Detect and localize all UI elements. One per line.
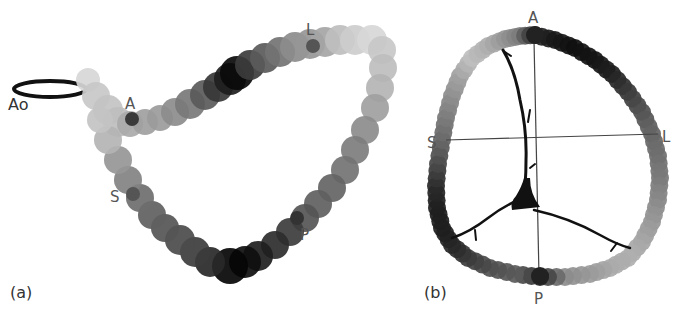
marker-s-dot — [126, 187, 140, 201]
marker-b-a-dot — [526, 26, 544, 44]
marker-a-dot — [125, 112, 139, 126]
panel-b: A L S P (b) — [424, 9, 671, 308]
panel-a: Ao A L S P (a) — [8, 21, 397, 302]
panel-b-label: (b) — [424, 283, 447, 302]
label-s: S — [110, 188, 120, 206]
branch-junction — [512, 178, 541, 210]
label-a: A — [125, 95, 136, 113]
axis-s-l — [446, 134, 658, 140]
annulus-loop-planar — [427, 26, 669, 286]
label-p: P — [300, 226, 309, 244]
annulus-loop-3d — [76, 25, 397, 284]
annulus-figure: Ao A L S P (a) A L S P (b) — [0, 0, 678, 320]
label-b-p: P — [534, 290, 543, 308]
axis-a-p — [534, 40, 539, 276]
panel-a-label: (a) — [10, 283, 32, 302]
marker-p-dot — [290, 211, 304, 225]
marker-b-p-dot — [531, 267, 549, 285]
label-l: L — [306, 21, 315, 39]
label-b-a: A — [528, 9, 539, 27]
aorta-label: Ao — [8, 95, 28, 114]
label-b-s: S — [427, 134, 437, 152]
branching-structure — [452, 50, 630, 251]
marker-l-dot — [306, 39, 320, 53]
label-b-l: L — [662, 128, 671, 146]
